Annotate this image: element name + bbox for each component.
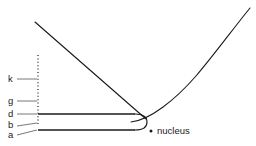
diagram-canvas: k g d b a nucleus	[0, 0, 256, 146]
leader-line-a	[17, 130, 37, 135]
turn-loop	[135, 114, 147, 130]
axis-label-g: g	[8, 95, 13, 106]
axis-label-a: a	[8, 129, 14, 140]
axis-label-k: k	[8, 73, 13, 84]
rising-curve	[131, 8, 250, 122]
descending-line	[35, 22, 146, 119]
nucleus-point-marker	[150, 130, 153, 133]
axis-label-d: d	[8, 108, 13, 119]
leader-line-b	[17, 123, 37, 126]
nucleus-label: nucleus	[157, 125, 190, 136]
